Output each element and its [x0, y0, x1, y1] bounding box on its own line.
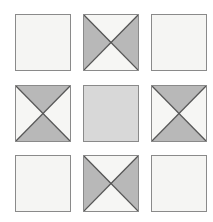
- diagonal-lines: [152, 86, 206, 141]
- grid-cell-top-center: [83, 14, 139, 71]
- diagonal-lines: [84, 15, 138, 70]
- diagonal-lines: [84, 156, 138, 211]
- grid-cell-bottom-center: [83, 155, 139, 212]
- grid-cell-middle-right: [151, 85, 207, 142]
- grid-cell-middle-center: [83, 85, 139, 142]
- grid-cell-top-left: [15, 14, 71, 71]
- diagonal-lines: [16, 86, 70, 141]
- grid-cell-bottom-right: [151, 155, 207, 212]
- pattern-grid: [0, 0, 213, 222]
- grid-cell-bottom-left: [15, 155, 71, 212]
- grid-cell-middle-left: [15, 85, 71, 142]
- grid-cell-top-right: [151, 14, 207, 71]
